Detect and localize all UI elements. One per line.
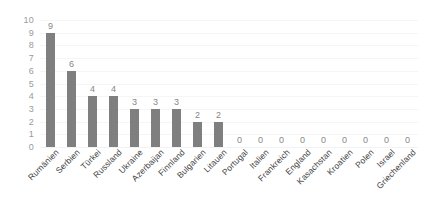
- bar-value-label: 4: [90, 85, 95, 94]
- y-axis-tick-10: 10: [24, 16, 34, 25]
- bar-slot[interactable]: 0: [376, 20, 397, 147]
- bar-value-label: 3: [153, 98, 158, 107]
- bar-value-label: 2: [216, 111, 221, 120]
- bar-slot[interactable]: 0: [271, 20, 292, 147]
- bar-value-label: 6: [69, 60, 74, 69]
- x-axis: RumänienSerbienTürkeiRusslandUkraineAzer…: [40, 148, 418, 210]
- x-axis-label-text: Polen: [353, 148, 375, 170]
- bar-value-label: 3: [132, 98, 137, 107]
- bar-value-label: 2: [195, 111, 200, 120]
- bar-slot[interactable]: 9: [40, 20, 61, 147]
- bar-slot[interactable]: 0: [229, 20, 250, 147]
- y-axis-tick-0: 0: [29, 143, 34, 152]
- y-axis-tick-5: 5: [29, 79, 34, 88]
- bar-slot[interactable]: 0: [397, 20, 418, 147]
- bar-slot[interactable]: 4: [103, 20, 124, 147]
- y-axis-tick-6: 6: [29, 66, 34, 75]
- bar[interactable]: [46, 33, 55, 147]
- y-axis-tick-7: 7: [29, 54, 34, 63]
- bar-chart: 109876543210 964433322000000000 Rumänien…: [0, 0, 430, 210]
- y-axis-tick-1: 1: [29, 130, 34, 139]
- y-axis-tick-3: 3: [29, 104, 34, 113]
- y-axis-tick-4: 4: [29, 92, 34, 101]
- bar-value-label: 9: [48, 22, 53, 31]
- bar-value-label: 3: [174, 98, 179, 107]
- bar-value-label: 4: [111, 85, 116, 94]
- y-axis-tick-2: 2: [29, 117, 34, 126]
- y-axis-tick-9: 9: [29, 28, 34, 37]
- y-axis: 109876543210: [0, 20, 34, 147]
- y-axis-tick-8: 8: [29, 41, 34, 50]
